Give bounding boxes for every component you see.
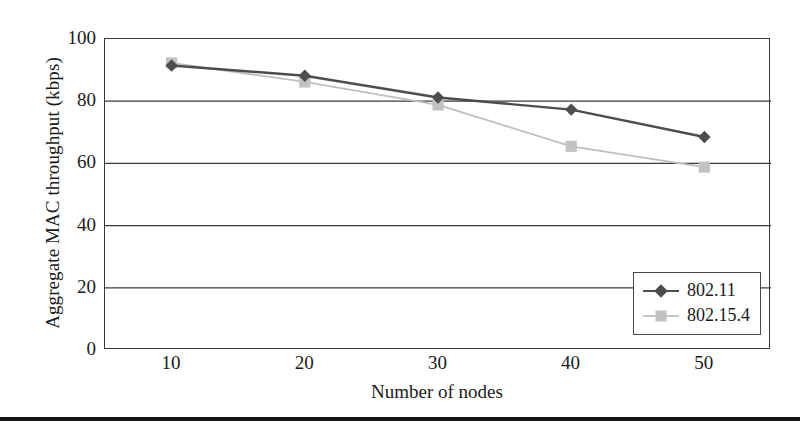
y-tick-label: 100	[48, 28, 96, 47]
x-tick-label: 30	[407, 353, 467, 372]
data-point-marker	[699, 162, 710, 173]
series-line	[172, 63, 705, 167]
x-tick-label: 10	[141, 353, 201, 372]
x-tick-label: 20	[274, 353, 334, 372]
data-point-marker	[566, 141, 577, 152]
x-tick-20: 20	[274, 353, 334, 372]
x-tick-label: 50	[674, 353, 734, 372]
chart-figure: Aggregate MAC throughput (kbps) 100 80 6…	[0, 0, 800, 431]
legend-entry-80211: 802.11	[641, 278, 753, 303]
y-tick-label: 20	[48, 277, 96, 296]
x-axis-title: Number of nodes	[104, 381, 770, 403]
footer-rule	[0, 417, 800, 421]
legend-marker-diamond-icon	[641, 281, 681, 301]
legend-marker-square-icon	[641, 306, 681, 326]
chart-legend: 802.11 802.15.4	[633, 272, 761, 335]
x-tick-label: 40	[541, 353, 601, 372]
x-tick-50: 50	[674, 353, 734, 372]
legend-label: 802.11	[681, 280, 736, 301]
x-tick-40: 40	[541, 353, 601, 372]
x-tick-30: 30	[407, 353, 467, 372]
y-axis-title: Aggregate MAC throughput (kbps)	[42, 28, 64, 358]
legend-label: 802.15.4	[681, 305, 750, 326]
x-tick-10: 10	[141, 353, 201, 372]
y-tick-label: 40	[48, 215, 96, 234]
y-tick-label: 60	[48, 152, 96, 171]
legend-entry-802154: 802.15.4	[641, 303, 753, 328]
data-point-marker	[698, 131, 710, 143]
data-point-marker	[565, 103, 577, 115]
y-tick-label: 80	[48, 90, 96, 109]
y-tick-label: 0	[48, 339, 96, 358]
